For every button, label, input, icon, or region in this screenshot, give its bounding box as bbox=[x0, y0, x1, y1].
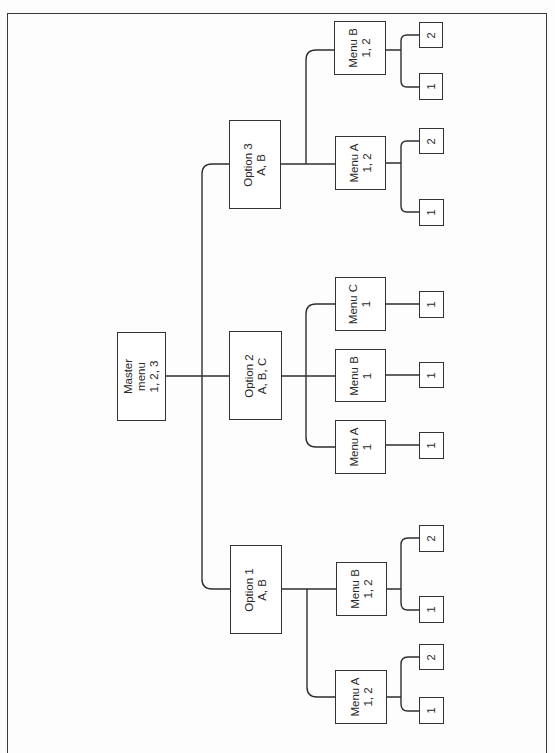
opt1-menu-a-leaf-2: 2 bbox=[419, 644, 444, 670]
option-1-node: Option 1A, B bbox=[230, 545, 282, 634]
opt1-menu-b-leaf-1: 1 bbox=[419, 596, 444, 623]
option-3-node: Option 3A, B bbox=[229, 120, 281, 209]
connector-opt2-menuC bbox=[306, 304, 335, 376]
leaf-label: 1 bbox=[425, 442, 438, 448]
opt3-menu-a-node: Menu A1, 2 bbox=[335, 136, 386, 190]
leaf-label: 1 bbox=[425, 301, 438, 307]
node-label: Menu A bbox=[348, 678, 361, 717]
opt2-menu-b-node: Menu B1 bbox=[335, 349, 386, 402]
leaf-label: 2 bbox=[425, 138, 438, 144]
opt2-menu-a-node: Menu A1 bbox=[335, 420, 386, 474]
connector-opt1-menuB-leaves bbox=[387, 538, 419, 610]
opt2-menu-c-leaf-1: 1 bbox=[419, 291, 444, 318]
connector-opt3-menuB bbox=[306, 50, 334, 164]
connector-trunk-opt1 bbox=[202, 579, 230, 589]
opt3-menu-b-leaf-1: 1 bbox=[419, 73, 443, 100]
opt1-menu-a-leaf-1: 1 bbox=[419, 697, 444, 724]
opt1-menu-b-node: Menu B1, 2 bbox=[336, 562, 387, 616]
node-label: Menu A bbox=[348, 144, 361, 183]
leaf-label: 2 bbox=[425, 654, 438, 660]
opt3-menu-a-leaf-1: 1 bbox=[419, 199, 444, 226]
node-label: 1, 2, 3 bbox=[148, 359, 161, 394]
node-label: menu bbox=[135, 359, 148, 394]
node-label: Menu A bbox=[348, 428, 361, 467]
node-label: 1, 2 bbox=[360, 28, 373, 68]
node-label: Option 1 bbox=[243, 568, 256, 611]
node-label: A, B, C bbox=[255, 354, 268, 397]
opt3-menu-a-leaf-2: 2 bbox=[419, 128, 444, 154]
opt2-menu-c-node: Menu C1 bbox=[335, 277, 386, 331]
node-label: 1, 2 bbox=[361, 569, 374, 609]
leaf-label: 2 bbox=[425, 32, 438, 38]
opt2-menu-a-leaf-1: 1 bbox=[419, 432, 444, 459]
node-label: Menu B bbox=[347, 356, 360, 396]
connector-opt3-menuB-leaves bbox=[386, 35, 419, 87]
option-2-node: Option 2A, B, C bbox=[229, 331, 282, 420]
node-label: 1, 2 bbox=[361, 144, 374, 183]
master-menu-node: Mastermenu1, 2, 3 bbox=[117, 332, 166, 421]
node-label: Menu C bbox=[348, 284, 361, 324]
connector-trunk-opt3 bbox=[202, 164, 229, 174]
node-label: A, B bbox=[255, 143, 268, 186]
node-label: Option 2 bbox=[242, 354, 255, 397]
connector-opt3-menuA-leaves bbox=[386, 141, 419, 212]
opt1-menu-b-leaf-2: 2 bbox=[419, 525, 444, 552]
leaf-label: 1 bbox=[425, 83, 438, 89]
node-label: 1, 2 bbox=[361, 678, 374, 717]
connector-opt2-menuA bbox=[306, 376, 335, 447]
node-label: Option 3 bbox=[242, 143, 255, 186]
leaf-label: 1 bbox=[425, 606, 438, 612]
leaf-label: 1 bbox=[425, 372, 438, 378]
node-label: A, B bbox=[256, 568, 269, 611]
leaf-label: 2 bbox=[425, 535, 438, 541]
node-label: 1 bbox=[361, 428, 374, 467]
connector-opt1-menuA-leaves bbox=[387, 657, 419, 711]
opt3-menu-b-node: Menu B1, 2 bbox=[334, 21, 386, 75]
connector-opt1-menuA bbox=[307, 589, 335, 697]
opt1-menu-a-node: Menu A1, 2 bbox=[335, 670, 387, 724]
node-label: 1 bbox=[361, 284, 374, 324]
leaf-label: 1 bbox=[425, 209, 438, 215]
opt3-menu-b-leaf-2: 2 bbox=[419, 22, 443, 48]
node-label: Master bbox=[122, 359, 135, 394]
node-label: 1 bbox=[360, 356, 373, 396]
node-label: Menu B bbox=[347, 28, 360, 68]
leaf-label: 1 bbox=[425, 707, 438, 713]
node-label: Menu B bbox=[348, 569, 361, 609]
opt2-menu-b-leaf-1: 1 bbox=[419, 362, 444, 388]
